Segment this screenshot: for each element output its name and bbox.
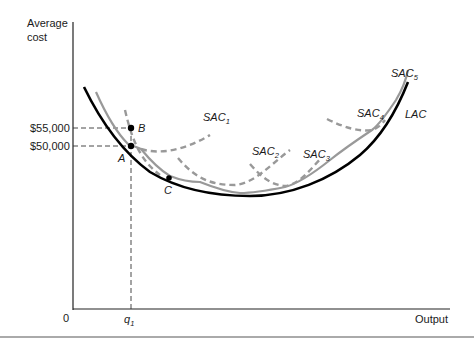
point-c: [166, 175, 172, 181]
origin-label: 0: [63, 312, 69, 324]
sac4-label: SAC4: [357, 107, 384, 122]
sac3-curve: [250, 157, 322, 186]
y-tick-55000: $55,000: [30, 122, 70, 134]
x-axis-label: Output: [415, 313, 448, 325]
cost-curves-diagram: Average cost 0 Output q1 $55,000 $50,000…: [0, 0, 474, 344]
y-axis-label-line2: cost: [27, 31, 47, 43]
point-c-label: C: [164, 184, 172, 196]
x-tick-q1: q1: [124, 313, 134, 328]
point-a-label: A: [117, 152, 125, 164]
sac2-label: SAC2: [252, 145, 280, 160]
sac1-label: SAC1: [203, 111, 230, 126]
point-b: [128, 125, 134, 131]
y-tick-50000: $50,000: [30, 140, 70, 152]
lac-label: LAC: [405, 108, 426, 120]
point-a: [128, 143, 134, 149]
y-axis-label-line1: Average: [27, 17, 68, 29]
point-b-label: B: [138, 122, 145, 134]
sac3-label: SAC3: [303, 148, 331, 163]
sac1-curve: [125, 110, 210, 175]
